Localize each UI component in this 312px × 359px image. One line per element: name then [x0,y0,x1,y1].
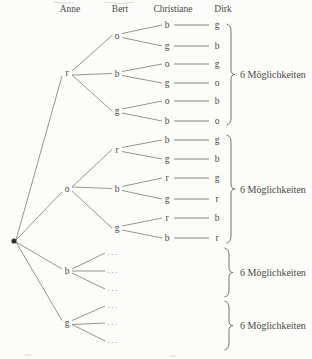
christiane-node-g: g [165,78,170,88]
branch-line [122,76,162,84]
bert-node-b: b [115,69,120,79]
anne-node-o: o [65,184,70,194]
bert-node-o: o [115,31,120,41]
christiane-node-b: b [165,116,170,126]
column-header-bert: Bert [112,4,129,14]
dirk-node-r: r [215,233,219,243]
branch-line [72,191,112,228]
brace-label-3: 6 Möglichkeiten [240,267,306,278]
bert-node-g: g [115,223,120,233]
branch-line [72,74,112,76]
branch-root-to-b [16,242,62,269]
dirk-node-o: o [215,116,220,126]
dirk-node-b: b [215,154,220,164]
christiane-node-b: b [165,20,170,30]
dirk-node-o: o [215,78,220,88]
anne-node-r: r [65,68,69,78]
ellipsis-label: ... [107,317,118,327]
branch-line [72,150,112,188]
ellipsis-label: ... [107,283,118,293]
branch-line [122,64,162,72]
christiane-node-r: r [165,173,169,183]
branch-line [122,152,162,160]
ellipsis-label: ... [107,265,118,275]
dirk-node-b: b [215,96,220,106]
column-header-dirk: Dirk [214,4,232,14]
bert-node-b: b [115,184,120,194]
brace-label-4: 6 Möglichkeiten [240,320,306,331]
branch-line [72,253,105,269]
dirk-node-b: b [215,41,220,51]
bert-node-r: r [115,145,119,155]
dirk-node-g: g [215,135,220,145]
christiane-node-g: g [165,154,170,164]
column-header-anne: Anne [60,4,81,14]
branch-line [122,113,162,121]
branch-line [72,36,112,72]
dirk-node-g: g [215,173,220,183]
ellipsis-label: ... [107,335,118,345]
branch-line [122,101,162,109]
branch-line [72,273,105,289]
branch-line [72,187,112,189]
branch-line [122,230,162,238]
tree-diagram-page: AnneBertChristianeDirkrobggbboggogobboor… [0,0,312,359]
branch-line [72,323,105,325]
dirk-node-g: g [215,20,220,30]
possibility-tree-diagram: AnneBertChristianeDirkrobggbboggogobboor… [0,0,312,359]
branch-line [122,140,162,148]
branch-line [122,191,162,200]
ellipsis-label: ... [107,300,118,310]
christiane-node-b: b [165,233,170,243]
christiane-node-r: r [165,213,169,223]
branch-line [122,218,162,226]
column-header-christiane: Christiane [153,4,192,14]
dirk-node-b: b [215,213,220,223]
brace-label-1: 6 Möglichkeiten [240,69,306,80]
brace-group-1 [227,24,236,125]
brace-group-2 [227,135,236,243]
brace-label-2: 6 Möglichkeiten [240,184,306,195]
branch-line [122,25,162,34]
brace-group-3 [225,248,234,297]
christiane-node-g: g [165,41,170,51]
christiane-node-o: o [165,59,170,69]
branch-line [122,178,162,187]
branch-line [72,325,105,342]
christiane-node-o: o [165,96,170,106]
anne-node-b: b [65,266,70,276]
bert-node-g: g [115,106,120,116]
branch-root-to-g [16,242,62,321]
scan-artifact [169,355,177,357]
dirk-node-g: g [215,59,220,69]
branch-root-to-r [16,76,62,240]
anne-node-g: g [65,318,70,328]
dirk-node-r: r [215,194,219,204]
christiane-node-g: g [165,194,170,204]
brace-group-4 [225,301,234,350]
branch-line [72,306,105,321]
branch-line [122,38,162,47]
branch-line [72,75,112,111]
scan-artifact [24,354,32,356]
ellipsis-label: ... [107,247,118,257]
christiane-node-b: b [165,135,170,145]
